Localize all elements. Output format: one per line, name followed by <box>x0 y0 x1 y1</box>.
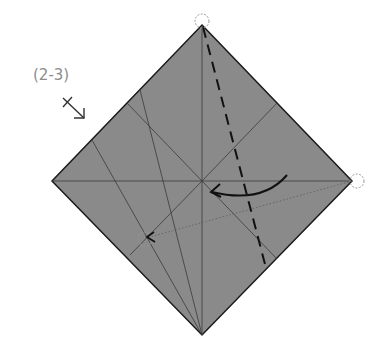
origami-diagram <box>0 0 371 358</box>
arrow-down-right-icon <box>63 97 84 118</box>
